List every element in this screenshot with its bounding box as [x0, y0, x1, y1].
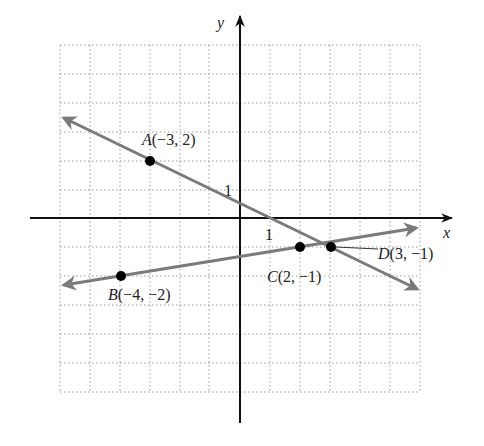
point-d — [326, 242, 336, 252]
label-d: D(3, −1) — [377, 245, 433, 263]
point-c — [295, 242, 305, 252]
point-a — [145, 156, 155, 166]
label-b: B(−4, −2) — [108, 286, 170, 304]
label-a: A(−3, 2) — [141, 131, 195, 149]
y-axis-label: y — [215, 14, 225, 32]
point-b — [116, 271, 126, 281]
x-tick-label: 1 — [265, 226, 273, 243]
coordinate-graph: x y 1 1 A(−3, 2) B(−4, −2) C(2, −1) D(3,… — [0, 0, 484, 446]
x-axis-label: x — [442, 224, 450, 241]
label-c: C(2, −1) — [267, 268, 321, 286]
